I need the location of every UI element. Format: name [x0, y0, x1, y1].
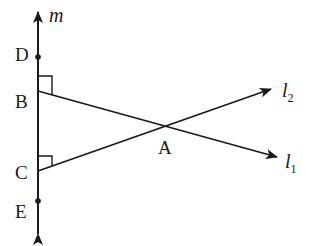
geometry-diagram: m D B A C E l2 l1 — [0, 0, 310, 246]
label-m: m — [49, 4, 63, 26]
point-e-dot — [35, 198, 41, 204]
label-l1-subscript: 1 — [291, 162, 297, 176]
label-a: A — [158, 137, 172, 158]
label-l1: l1 — [285, 150, 297, 176]
label-l2-subscript: 2 — [288, 91, 294, 105]
label-l2: l2 — [282, 79, 294, 105]
label-c: C — [15, 162, 28, 183]
point-d-dot — [35, 54, 41, 60]
right-angle-mark-c — [38, 156, 52, 166]
label-b: B — [15, 91, 28, 112]
label-e: E — [15, 201, 27, 222]
label-d: D — [15, 44, 29, 65]
